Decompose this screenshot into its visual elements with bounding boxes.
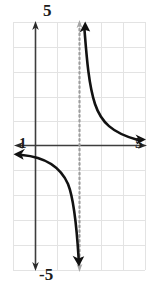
y-axis-top-label: 5 (43, 2, 52, 19)
x-axis-left-label: 1 (19, 136, 27, 151)
curve-upper-branch (80, 22, 146, 145)
curve-lower-branch (14, 149, 85, 267)
graph-canvas: 5 -5 1 5 (0, 0, 158, 288)
x-axis-right-label: 5 (135, 136, 143, 151)
y-axis-bottom-label: -5 (39, 266, 53, 283)
